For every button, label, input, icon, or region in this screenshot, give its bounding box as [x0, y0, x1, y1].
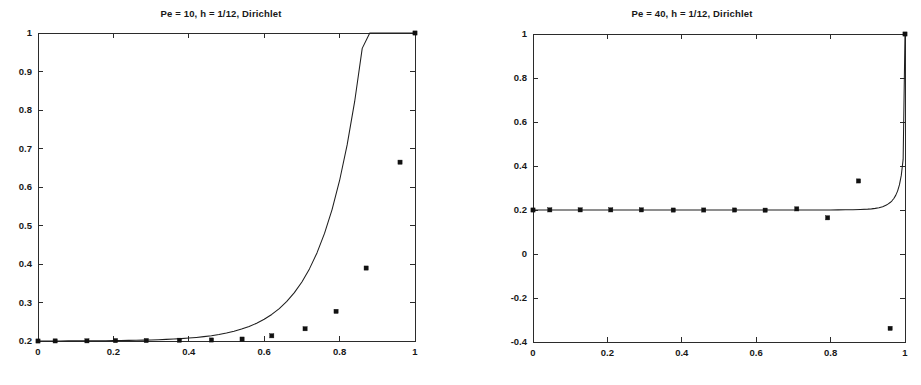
y-axis-tick-label: 0.6	[514, 116, 527, 127]
numerical-solution-marker	[113, 339, 117, 343]
numerical-solution-marker	[364, 266, 368, 270]
y-axis-tick-label: 0.2	[19, 335, 32, 346]
numerical-solution-marker	[53, 339, 57, 343]
plot-canvas-pe40: -0.4-0.200.20.40.60.8100.20.40.60.81	[460, 0, 920, 385]
plot-canvas-pe10: 0.20.30.40.50.60.70.80.9100.20.40.60.81	[0, 0, 460, 385]
y-axis-tick-label: 0.6	[19, 181, 32, 192]
y-axis-tick-label: 0.9	[19, 66, 32, 77]
x-axis-tick-label: 0.4	[675, 347, 689, 358]
numerical-solution-marker	[303, 327, 307, 331]
numerical-solution-marker	[413, 31, 417, 35]
exact-solution-curve	[38, 33, 415, 341]
plot-panel-pe10: Pe = 10, h = 1/12, Dirichlet 0.20.30.40.…	[0, 0, 460, 385]
x-axis-tick-label: 1	[412, 346, 418, 357]
numerical-solution-marker	[609, 208, 613, 212]
y-axis-tick-label: -0.4	[511, 336, 528, 347]
numerical-solution-marker	[888, 326, 892, 330]
numerical-solution-marker	[856, 179, 860, 183]
numerical-solution-marker	[548, 208, 552, 212]
x-axis-tick-label: 0	[35, 346, 40, 357]
x-axis-tick-label: 0.2	[107, 346, 120, 357]
numerical-solution-marker	[903, 32, 907, 36]
x-axis-tick-label: 0.4	[182, 346, 196, 357]
x-axis-tick-label: 0.2	[601, 347, 614, 358]
y-axis-tick-label: 0.8	[514, 72, 527, 83]
x-axis-tick-label: 0	[530, 347, 535, 358]
y-axis-tick-label: 0.4	[19, 258, 33, 269]
numerical-solution-marker	[578, 208, 582, 212]
figure-root: Pe = 10, h = 1/12, Dirichlet 0.20.30.40.…	[0, 0, 921, 385]
y-axis-tick-label: 0.3	[19, 297, 32, 308]
numerical-solution-marker	[177, 338, 181, 342]
x-axis-tick-label: 0.8	[824, 347, 837, 358]
y-axis-tick-label: 0	[522, 248, 527, 259]
numerical-solution-marker	[732, 208, 736, 212]
numerical-solution-marker	[36, 339, 40, 343]
plot-panel-pe40: Pe = 40, h = 1/12, Dirichlet -0.4-0.200.…	[460, 0, 920, 385]
axes-frame	[533, 34, 905, 342]
numerical-solution-marker	[144, 338, 148, 342]
y-axis-tick-label: 0.4	[514, 160, 528, 171]
y-axis-tick-label: 1	[27, 27, 33, 38]
numerical-solution-marker	[209, 338, 213, 342]
exact-solution-curve	[533, 34, 905, 210]
numerical-solution-marker	[639, 208, 643, 212]
y-axis-tick-label: 1	[522, 28, 528, 39]
y-axis-tick-label: -0.2	[511, 292, 527, 303]
numerical-solution-marker	[795, 207, 799, 211]
numerical-solution-marker	[702, 208, 706, 212]
numerical-solution-marker	[763, 208, 767, 212]
numerical-solution-marker	[398, 160, 402, 164]
y-axis-tick-label: 0.7	[19, 143, 32, 154]
x-axis-tick-label: 0.8	[333, 346, 346, 357]
numerical-solution-marker	[671, 208, 675, 212]
x-axis-tick-label: 0.6	[258, 346, 271, 357]
x-axis-tick-label: 0.6	[750, 347, 763, 358]
numerical-solution-marker	[85, 339, 89, 343]
y-axis-tick-label: 0.2	[514, 204, 527, 215]
axes-frame	[38, 33, 415, 341]
x-axis-tick-label: 1	[902, 347, 908, 358]
y-axis-tick-label: 0.5	[19, 220, 33, 231]
numerical-solution-marker	[240, 337, 244, 341]
y-axis-tick-label: 0.8	[19, 104, 32, 115]
numerical-solution-marker	[531, 208, 535, 212]
numerical-solution-marker	[270, 334, 274, 338]
numerical-solution-marker	[334, 309, 338, 313]
numerical-solution-marker	[826, 216, 830, 220]
